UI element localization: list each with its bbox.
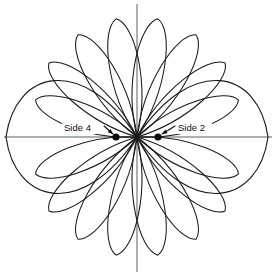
- side-4-label: Side 4: [64, 122, 91, 133]
- radiation-pattern-figure: Side 4Side 2: [0, 0, 276, 276]
- side-2-label: Side 2: [178, 122, 205, 133]
- side-2-marker-dot: [154, 133, 161, 140]
- side-4-marker-dot: [112, 133, 119, 140]
- polar-pattern-chart: Side 4Side 2: [0, 0, 276, 276]
